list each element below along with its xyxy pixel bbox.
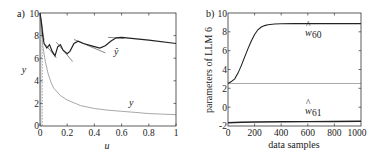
panel-a-axes-box bbox=[40, 13, 176, 126]
annotation-y: y bbox=[128, 97, 134, 108]
panel-b-axes-box bbox=[228, 13, 361, 126]
annotation-w61: ^ w 61 bbox=[305, 98, 322, 118]
ytick-label: 2 bbox=[34, 99, 39, 109]
ytick-label: 10 bbox=[30, 9, 40, 19]
series-y-line bbox=[40, 13, 176, 115]
xtick-label: 1000 bbox=[348, 128, 367, 138]
ytick-label: 6 bbox=[34, 54, 39, 64]
panel-b-yticks bbox=[228, 32, 361, 107]
panel-a-xtick-labels: 0 0.2 0.4 0.6 0.8 1 bbox=[38, 128, 179, 138]
panel-b-ylabel: parameters of LLM 6 bbox=[203, 27, 214, 113]
xtick-label: 800 bbox=[327, 128, 342, 138]
xtick-label: 0.6 bbox=[116, 128, 128, 138]
ytick-label: 0 bbox=[222, 103, 227, 113]
panel-b: b) 0 200 400 600 bbox=[203, 8, 367, 150]
xtick-label: 1 bbox=[174, 128, 179, 138]
ytick-label: 10 bbox=[218, 9, 228, 19]
panel-a-label: a) bbox=[17, 8, 25, 20]
annotation-w60: ^ w 60 bbox=[305, 20, 322, 40]
annotation-yhat: ŷ bbox=[113, 46, 119, 57]
series-w61-line bbox=[228, 121, 361, 122]
panel-a-xticks bbox=[40, 13, 176, 126]
panel-a-ytick-labels: 0 2 4 6 8 10 bbox=[30, 9, 40, 132]
xtick-label: 600 bbox=[301, 128, 316, 138]
ytick-label: 4 bbox=[222, 65, 227, 75]
ytick-label: 0 bbox=[34, 121, 39, 131]
panel-a: a) bbox=[17, 8, 179, 151]
local-model-tangents bbox=[40, 13, 124, 62]
ytick-label: 8 bbox=[222, 27, 227, 37]
panel-b-ytick-labels: -2 0 2 4 6 8 10 bbox=[218, 9, 228, 132]
xtick-label: 0.2 bbox=[61, 128, 73, 138]
panel-b-label: b) bbox=[206, 8, 214, 20]
ytick-label: 6 bbox=[222, 46, 227, 56]
xtick-label: 0.8 bbox=[143, 128, 155, 138]
ytick-label: 2 bbox=[222, 84, 227, 94]
xtick-label: 0.4 bbox=[88, 128, 100, 138]
ytick-label: 8 bbox=[34, 31, 39, 41]
xtick-label: 200 bbox=[247, 128, 262, 138]
annotation-w61-sub: 61 bbox=[312, 108, 322, 118]
panel-b-xticks bbox=[255, 13, 335, 126]
panel-a-xlabel: u bbox=[105, 140, 110, 151]
annotation-w60-sub: 60 bbox=[312, 30, 322, 40]
xtick-label: 400 bbox=[274, 128, 289, 138]
annotation-w60-base: w bbox=[305, 27, 312, 38]
annotation-w61-base: w bbox=[305, 105, 312, 116]
panel-a-ylabel: y bbox=[21, 64, 27, 75]
ytick-label: 4 bbox=[34, 76, 39, 86]
ytick-label: -2 bbox=[219, 121, 227, 131]
series-w60-line bbox=[228, 24, 361, 84]
series-yhat-line bbox=[40, 13, 176, 56]
panel-b-xtick-labels: 0 200 400 600 800 1000 bbox=[226, 128, 367, 138]
figure: a) bbox=[0, 0, 390, 155]
panel-b-xlabel: data samples bbox=[268, 139, 319, 150]
